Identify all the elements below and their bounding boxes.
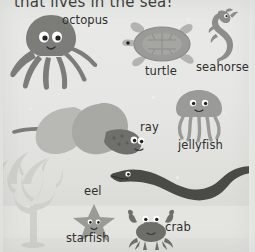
label-jellyfish: jellyfish bbox=[178, 140, 223, 152]
label-eel: eel bbox=[84, 186, 102, 198]
sea-creatures-illustration: that lives in the sea! bbox=[0, 0, 255, 252]
label-seahorse: seahorse bbox=[196, 62, 249, 74]
jellyfish bbox=[166, 88, 232, 144]
page-edge-right bbox=[249, 0, 255, 252]
label-turtle: turtle bbox=[145, 66, 177, 78]
bubble bbox=[108, 20, 110, 22]
coral bbox=[2, 158, 68, 246]
turtle bbox=[122, 20, 200, 68]
eel bbox=[106, 162, 255, 208]
label-crab: crab bbox=[165, 222, 191, 234]
ray bbox=[6, 94, 156, 164]
page-heading: that lives in the sea! bbox=[14, 0, 173, 11]
label-ray: ray bbox=[140, 122, 159, 134]
page-edge-left bbox=[0, 0, 3, 252]
seahorse bbox=[206, 10, 244, 62]
label-octopus: octopus bbox=[62, 15, 108, 27]
label-starfish: starfish bbox=[66, 233, 110, 245]
